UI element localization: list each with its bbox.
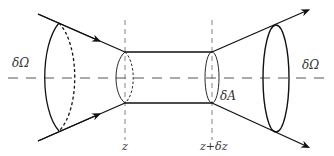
label-area: δA xyxy=(220,89,236,103)
ray-top-right xyxy=(212,11,306,52)
label-z-plus-dz: z+δz xyxy=(199,140,228,153)
flux-tube-diagram: δΩ δΩ δA z z+δz xyxy=(0,0,334,156)
label-solid-angle-right: δΩ xyxy=(302,58,319,72)
left-ellipse-back xyxy=(59,23,75,131)
diagram-canvas: δΩ δΩ δA z z+δz xyxy=(0,0,334,156)
left-ellipse-front xyxy=(45,23,59,131)
ray-top-left-arrow xyxy=(38,14,97,40)
label-z: z xyxy=(121,140,128,153)
label-solid-angle-left: δΩ xyxy=(12,56,29,70)
cylinder-left-back xyxy=(125,52,133,103)
